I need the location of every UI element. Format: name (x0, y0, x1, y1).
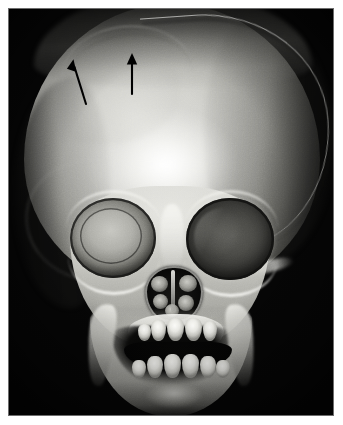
medical-image-panel (8, 8, 334, 416)
nasal-bridge (160, 204, 184, 270)
figure-root (0, 0, 343, 425)
skull-rendering (8, 8, 334, 416)
nasal-septum (171, 270, 175, 312)
nasal-turbinate (179, 275, 197, 292)
nasal-turbinate (151, 276, 168, 292)
